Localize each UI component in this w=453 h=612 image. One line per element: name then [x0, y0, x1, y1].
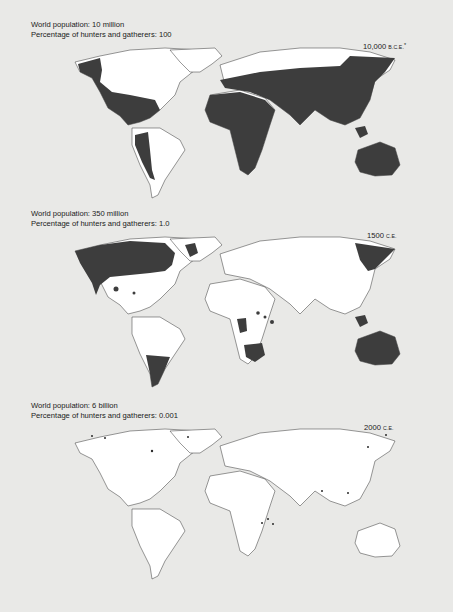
hg-andaman	[347, 492, 349, 494]
hg-east-africa-1	[256, 311, 260, 315]
hg-texas	[114, 287, 119, 292]
hg-south-america-south	[146, 355, 170, 387]
panel-1500-ce: World population: 350 million Percentage…	[0, 205, 453, 395]
hg-alaska	[91, 435, 93, 437]
panel-2000-ce: World population: 6 billion Percentage o…	[0, 395, 453, 612]
world-map	[0, 0, 453, 205]
hg-india	[321, 490, 323, 492]
hg-indonesia	[355, 126, 368, 138]
hg-east-africa-2	[264, 316, 267, 319]
landmasses	[75, 429, 400, 579]
hg-canada-1	[104, 437, 106, 439]
south-america	[132, 509, 185, 579]
hg-east-africa-3	[272, 523, 274, 525]
hg-east-africa-1	[261, 522, 263, 524]
africa	[205, 471, 275, 556]
hg-florida	[133, 292, 136, 295]
world-map	[0, 205, 453, 395]
hg-canada-2	[151, 450, 153, 452]
panel-10000-bce: World population: 10 million Percentage …	[0, 0, 453, 205]
hg-africa	[205, 92, 275, 175]
hg-east-africa-2	[267, 518, 269, 520]
australia	[355, 523, 400, 557]
hg-borneo	[355, 315, 368, 327]
hg-siberia-2	[367, 446, 369, 448]
hg-siberia	[385, 434, 387, 436]
world-map	[0, 395, 453, 612]
hg-greenland	[187, 436, 189, 438]
hg-east-africa-3	[270, 320, 274, 324]
